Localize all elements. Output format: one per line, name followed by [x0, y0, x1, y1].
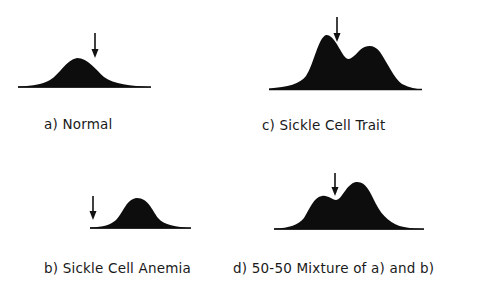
distribution-curve	[269, 35, 422, 90]
panel-c-trait-curve	[269, 17, 422, 90]
down-arrow-icon	[90, 196, 97, 220]
distribution-curve	[274, 182, 424, 230]
panel-b-anemia-curve	[90, 196, 192, 229]
panel-c-label: c) Sickle Cell Trait	[262, 117, 386, 133]
panel-a-normal-curve	[18, 33, 151, 88]
panel-a-label: a) Normal	[44, 116, 112, 132]
down-arrow-icon	[92, 33, 99, 58]
panel-b-label: b) Sickle Cell Anemia	[44, 260, 191, 276]
panel-d-label: d) 50-50 Mixture of a) and b)	[233, 260, 434, 276]
hemoglobin-distribution-diagram	[0, 0, 489, 294]
down-arrow-icon	[334, 17, 341, 42]
panel-d-mixture-curve	[274, 173, 424, 230]
distribution-curve	[18, 58, 151, 88]
distribution-curve	[90, 198, 191, 229]
down-arrow-icon	[332, 173, 339, 196]
